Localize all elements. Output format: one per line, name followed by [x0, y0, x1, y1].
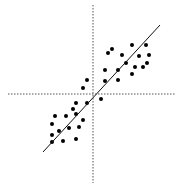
data-point — [137, 54, 141, 58]
data-point — [67, 126, 71, 130]
data-point — [53, 114, 57, 118]
data-point — [106, 51, 110, 55]
scatter-plot — [0, 0, 180, 185]
data-point — [85, 78, 89, 82]
data-point — [74, 101, 78, 105]
data-point — [103, 68, 107, 72]
data-point — [77, 125, 81, 129]
data-point — [133, 65, 137, 69]
data-point — [145, 61, 149, 65]
data-point — [144, 43, 148, 47]
data-point — [130, 72, 134, 76]
data-point — [81, 86, 85, 90]
data-point — [120, 53, 124, 57]
data-point — [61, 139, 65, 143]
data-point — [103, 79, 107, 83]
data-point — [147, 53, 151, 57]
data-point — [74, 137, 78, 141]
data-point — [64, 114, 68, 118]
data-point — [50, 133, 54, 137]
data-point — [50, 122, 54, 126]
data-point — [141, 65, 145, 69]
data-point — [99, 97, 103, 101]
data-point — [130, 43, 134, 47]
trend-line — [43, 25, 160, 152]
data-point — [81, 118, 85, 122]
data-point — [110, 47, 114, 51]
data-point — [71, 107, 75, 111]
data-point — [116, 78, 120, 82]
